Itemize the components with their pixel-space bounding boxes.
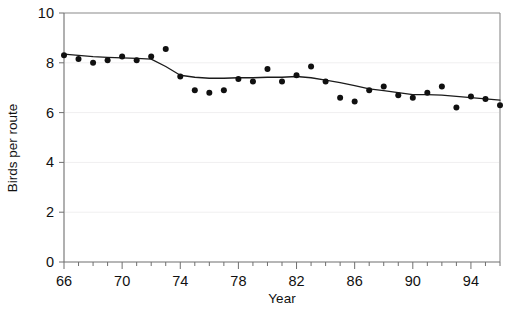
data-point — [148, 54, 154, 60]
gridlines — [65, 63, 499, 212]
data-point — [250, 78, 256, 84]
data-point — [119, 54, 125, 60]
x-tick-label: 74 — [172, 273, 188, 289]
data-point — [90, 60, 96, 66]
data-point — [424, 90, 430, 96]
y-axis-title: Birds per route — [5, 104, 20, 193]
data-point — [105, 57, 111, 63]
smoothed-trend-line — [64, 54, 500, 100]
data-point — [308, 64, 314, 70]
data-point — [134, 57, 140, 63]
x-tick-label: 78 — [230, 273, 246, 289]
data-point — [468, 93, 474, 99]
data-points — [61, 46, 503, 111]
y-axis-tick-labels: 0246810 — [38, 5, 54, 270]
data-point — [264, 66, 270, 72]
data-point — [352, 98, 358, 104]
data-point — [323, 78, 329, 84]
data-point — [497, 102, 503, 108]
y-tick-label: 10 — [38, 5, 54, 21]
data-point — [482, 96, 488, 102]
data-point — [294, 72, 300, 78]
y-tick-label: 6 — [46, 105, 54, 121]
data-point — [453, 105, 459, 111]
data-point — [410, 95, 416, 101]
data-point — [395, 92, 401, 98]
x-axis-title: Year — [268, 291, 296, 306]
data-point — [177, 74, 183, 80]
y-axis-ticks — [59, 13, 64, 262]
x-axis-tick-labels: 6670747882869094 — [56, 273, 479, 289]
data-point — [206, 90, 212, 96]
data-point — [366, 87, 372, 93]
y-tick-label: 0 — [46, 254, 54, 270]
birds-per-route-chart: 0246810 6670747882869094 Birds per route… — [0, 0, 505, 315]
data-point — [163, 46, 169, 52]
data-point — [76, 56, 82, 62]
y-tick-label: 4 — [46, 154, 54, 170]
data-point — [192, 87, 198, 93]
data-point — [61, 52, 67, 58]
y-tick-label: 8 — [46, 55, 54, 71]
chart-container: 0246810 6670747882869094 Birds per route… — [0, 0, 505, 315]
x-tick-label: 66 — [56, 273, 72, 289]
x-tick-label: 82 — [288, 273, 304, 289]
x-tick-label: 90 — [405, 273, 421, 289]
x-tick-label: 94 — [463, 273, 479, 289]
data-point — [279, 78, 285, 84]
x-axis-ticks — [64, 262, 500, 269]
data-point — [439, 83, 445, 89]
y-tick-label: 2 — [46, 204, 54, 220]
data-point — [337, 95, 343, 101]
data-point — [235, 76, 241, 82]
x-tick-label: 86 — [347, 273, 363, 289]
x-tick-label: 70 — [114, 273, 130, 289]
plot-frame — [64, 13, 500, 262]
data-point — [381, 83, 387, 89]
data-point — [221, 87, 227, 93]
